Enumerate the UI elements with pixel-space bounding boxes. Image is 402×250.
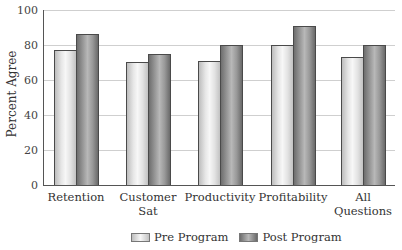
- bar-pre-retention: [54, 50, 77, 185]
- bar-post-profitability: [293, 26, 316, 185]
- legend-swatch-post: [239, 233, 258, 242]
- x-axis-line: [43, 185, 395, 186]
- x-tick-label: Productivity: [180, 190, 260, 204]
- legend-item-post: Post Program: [239, 230, 341, 244]
- plot-area: 020406080100: [43, 10, 395, 185]
- bar-pre-all-questions: [341, 57, 364, 185]
- bar-chart: Percent Agree 020406080100 RetentionCust…: [0, 0, 402, 250]
- bar-post-all-questions: [363, 45, 386, 185]
- gridline: [44, 10, 395, 11]
- y-tick-label: 100: [8, 4, 38, 17]
- y-tick-label: 20: [8, 144, 38, 157]
- legend-swatch-pre: [131, 233, 150, 242]
- legend-item-pre: Pre Program: [131, 230, 228, 244]
- x-tick-label: Retention: [36, 190, 116, 204]
- bar-pre-profitability: [271, 45, 294, 185]
- y-tick-label: 0: [8, 179, 38, 192]
- bar-pre-productivity: [198, 61, 221, 185]
- y-axis-label: Percent Agree: [5, 51, 19, 138]
- y-tick-label: 80: [8, 39, 38, 52]
- bar-post-customer-sat: [148, 54, 171, 185]
- x-tick-label: Profitability: [253, 190, 333, 204]
- x-tick-label: AllQuestions: [323, 190, 402, 218]
- x-tick-label: CustomerSat: [108, 190, 188, 218]
- y-axis-line: [43, 10, 44, 186]
- bar-pre-customer-sat: [126, 62, 149, 185]
- legend: Pre Program Post Program: [131, 231, 342, 243]
- bar-post-productivity: [220, 45, 243, 185]
- y-tick-label: 40: [8, 109, 38, 122]
- y-tick-label: 60: [8, 74, 38, 87]
- bar-post-retention: [76, 34, 99, 185]
- legend-label-pre: Pre Program: [154, 230, 228, 244]
- legend-label-post: Post Program: [262, 230, 341, 244]
